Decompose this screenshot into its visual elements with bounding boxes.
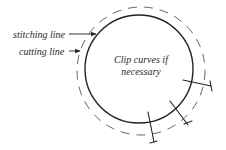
clip-mark-2 <box>170 101 192 125</box>
cutting-line-label: cutting line <box>19 46 64 57</box>
clip-mark-1 <box>183 80 212 91</box>
stitching-line-label: stitching line <box>13 29 65 40</box>
clip-curves-note: Clip curves if necessary <box>108 54 174 78</box>
clip-mark-3 <box>148 112 157 143</box>
